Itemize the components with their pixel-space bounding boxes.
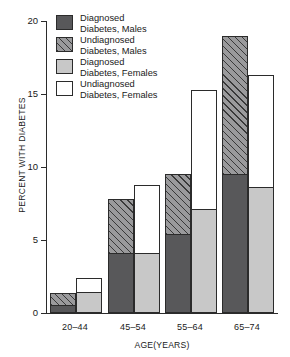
segment-divider (51, 305, 75, 306)
y-tick-15 (41, 94, 46, 95)
bar-male-20-44 (50, 293, 76, 313)
x-tick-label-55-64: 55–64 (162, 322, 218, 332)
diabetes-prevalence-bar-chart: 20 15 10 5 0 PERCENT WITH DIABETES AGE(Y… (0, 0, 290, 357)
segment-undiagnosed (249, 76, 273, 187)
segment-undiagnosed (223, 37, 247, 174)
bar-female-20-44 (76, 278, 102, 313)
legend-label-line2: Diabetes, Males (80, 46, 147, 56)
segment-undiagnosed (192, 91, 216, 209)
segment-undiagnosed (135, 186, 159, 253)
segment-diagnosed (192, 209, 216, 312)
segment-undiagnosed (77, 279, 101, 292)
segment-undiagnosed (51, 294, 75, 306)
y-tick-20 (41, 21, 46, 22)
y-tick-label-0: 0 (16, 308, 38, 318)
y-axis-title: PERCENT WITH DIABETES (17, 85, 27, 225)
segment-undiagnosed (109, 200, 133, 253)
bar-female-65-74 (248, 75, 274, 313)
segment-diagnosed (51, 305, 75, 312)
segment-divider (109, 253, 133, 254)
x-tick-label-45-54: 45–54 (105, 322, 161, 332)
legend-label-line1: Diagnosed (80, 13, 124, 23)
bar-female-45-54 (134, 185, 160, 313)
segment-diagnosed (166, 234, 190, 312)
y-tick-label-20: 20 (16, 16, 38, 26)
x-tick-label-20-44: 20–44 (47, 322, 103, 332)
segment-divider (223, 174, 247, 175)
white-swatch-icon (56, 81, 73, 96)
legend-label-undiagnosed-females: Undiagnosed Diabetes, Females (80, 79, 158, 100)
segment-diagnosed (77, 292, 101, 312)
legend-label-line1: Undiagnosed (80, 35, 135, 45)
legend-label-line1: Diagnosed (80, 57, 124, 67)
x-axis-title: AGE(YEARS) (46, 340, 278, 350)
y-tick-0 (41, 313, 46, 314)
legend-label-line2: Diabetes, Females (80, 90, 158, 100)
segment-divider (192, 209, 216, 210)
segment-divider (166, 234, 190, 235)
y-tick-5 (41, 240, 46, 241)
light-gray-swatch-icon (56, 59, 73, 74)
dark-gray-swatch-icon (56, 15, 73, 30)
segment-divider (135, 253, 159, 254)
segment-diagnosed (109, 253, 133, 312)
y-tick-label-5: 5 (16, 235, 38, 245)
segment-diagnosed (223, 174, 247, 312)
segment-divider (249, 187, 273, 188)
legend-label-line2: Diabetes, Females (80, 68, 158, 78)
bar-female-55-64 (191, 90, 217, 313)
legend-label-undiagnosed-males: Undiagnosed Diabetes, Males (80, 35, 147, 56)
hatched-swatch-icon (56, 37, 73, 52)
segment-undiagnosed (166, 175, 190, 233)
legend-label-line1: Undiagnosed (80, 79, 135, 89)
bar-male-45-54 (108, 199, 134, 313)
segment-diagnosed (135, 253, 159, 312)
x-axis-line (46, 313, 278, 314)
legend-label-diagnosed-males: Diagnosed Diabetes, Males (80, 13, 147, 34)
legend-label-line2: Diabetes, Males (80, 24, 147, 34)
legend-label-diagnosed-females: Diagnosed Diabetes, Females (80, 57, 158, 78)
bar-male-65-74 (222, 36, 248, 313)
bar-male-55-64 (165, 174, 191, 313)
segment-divider (77, 292, 101, 293)
y-tick-10 (41, 167, 46, 168)
segment-diagnosed (249, 187, 273, 312)
y-axis-line (46, 21, 47, 314)
x-tick-label-65-74: 65–74 (219, 322, 275, 332)
